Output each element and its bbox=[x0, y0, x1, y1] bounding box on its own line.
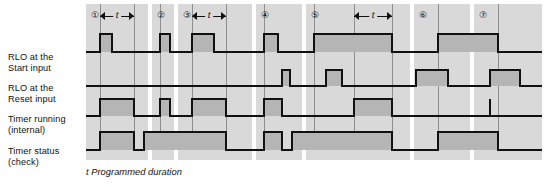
waveform-timer-running bbox=[86, 99, 542, 116]
pulse-timer-status-5 bbox=[438, 132, 498, 150]
timing-diagram-figure: RLO at the Start input RLO at the Reset … bbox=[0, 0, 550, 187]
figure-caption: t Programmed duration bbox=[86, 166, 182, 177]
pulse-rlo-reset-1 bbox=[282, 70, 290, 86]
pulse-timer-running-3 bbox=[192, 99, 226, 116]
pulse-timer-status-2 bbox=[144, 132, 226, 150]
row-label-line2: (internal) bbox=[8, 125, 86, 136]
pulse-timer-running-4 bbox=[264, 99, 282, 116]
pulse-rlo-reset-3 bbox=[416, 70, 448, 86]
trace-timer-running bbox=[86, 99, 542, 116]
pulse-rlo-start-6 bbox=[438, 34, 498, 52]
row-label-rlo-start: RLO at the Start input bbox=[8, 52, 86, 73]
row-label-rlo-reset: RLO at the Reset input bbox=[8, 83, 86, 104]
pulse-rlo-start-1 bbox=[100, 34, 112, 52]
row-label-line2: Start input bbox=[8, 63, 86, 74]
row-label-line1: Timer running bbox=[8, 114, 86, 125]
row-label-line1: RLO at the bbox=[8, 52, 86, 63]
row-label-line1: RLO at the bbox=[8, 83, 86, 94]
waveform-plot: ttt ①②③④⑤⑥⑦ bbox=[86, 4, 542, 160]
waveform-traces bbox=[86, 4, 542, 160]
pulse-rlo-reset-4 bbox=[490, 70, 520, 86]
row-label-timer-status: Timer status (check) bbox=[8, 146, 86, 167]
pulse-rlo-start-5 bbox=[314, 34, 392, 52]
pulse-timer-status-1 bbox=[100, 132, 134, 150]
trace-rlo-reset bbox=[86, 70, 542, 86]
pulse-timer-running-1 bbox=[100, 99, 134, 116]
pulse-timer-status-4 bbox=[292, 132, 392, 150]
row-label-line2: (check) bbox=[8, 157, 86, 168]
pulse-timer-status-3 bbox=[264, 132, 282, 150]
pulse-rlo-reset-2 bbox=[326, 70, 342, 86]
waveform-rlo-reset bbox=[86, 70, 542, 86]
row-label-line1: Timer status bbox=[8, 146, 86, 157]
row-label-timer-running: Timer running (internal) bbox=[8, 114, 86, 135]
waveform-rlo-start bbox=[86, 34, 542, 52]
row-label-line2: Reset input bbox=[8, 94, 86, 105]
waveform-timer-status bbox=[86, 132, 542, 150]
pulse-rlo-start-2 bbox=[160, 34, 170, 52]
pulse-timer-running-5 bbox=[354, 99, 392, 116]
pulse-timer-running-2 bbox=[160, 99, 170, 116]
pulse-rlo-start-3 bbox=[192, 34, 214, 52]
pulse-rlo-start-4 bbox=[264, 34, 278, 52]
